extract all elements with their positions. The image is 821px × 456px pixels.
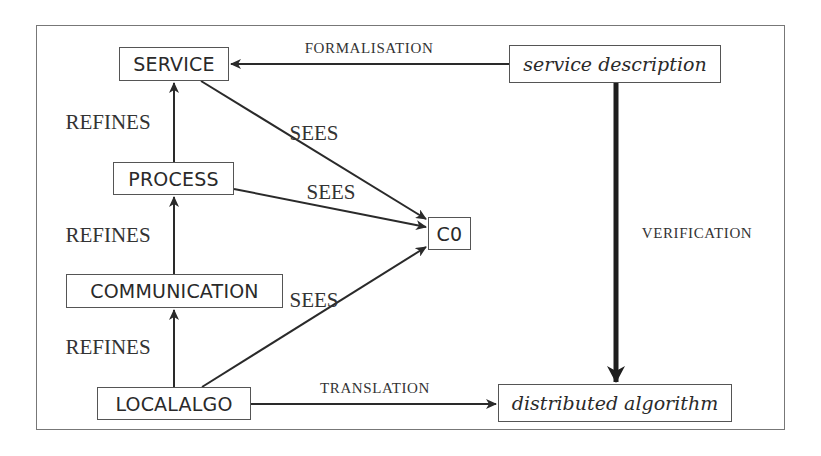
- refines-label-2: REFINES: [65, 223, 150, 248]
- translation-label: TRANSLATION: [320, 380, 430, 397]
- node-service-description: service description: [509, 45, 721, 83]
- node-service-description-label: service description: [523, 53, 706, 75]
- node-localalgo: LOCALALGO: [97, 387, 251, 420]
- node-communication-label: COMMUNICATION: [90, 280, 259, 302]
- node-communication: COMMUNICATION: [66, 274, 283, 308]
- sees-label-localalgo: SEES: [289, 288, 338, 313]
- node-process-label: PROCESS: [128, 168, 218, 190]
- node-c0: C0: [428, 217, 471, 250]
- node-process: PROCESS: [113, 162, 234, 195]
- node-distributed-algorithm-label: distributed algorithm: [512, 392, 718, 414]
- sees-arrow-localalgo-c0: [202, 247, 426, 387]
- sees-label-process: SEES: [306, 180, 355, 205]
- verification-label: VERIFICATION: [642, 225, 753, 242]
- node-distributed-algorithm: distributed algorithm: [498, 384, 732, 422]
- node-c0-label: C0: [437, 223, 463, 245]
- node-localalgo-label: LOCALALGO: [115, 393, 232, 415]
- sees-label-service: SEES: [289, 121, 338, 146]
- refines-label-3: REFINES: [65, 335, 150, 360]
- node-service: SERVICE: [119, 47, 229, 81]
- formalisation-label: FORMALISATION: [305, 40, 434, 57]
- node-service-label: SERVICE: [133, 53, 215, 75]
- refines-label-1: REFINES: [65, 110, 150, 135]
